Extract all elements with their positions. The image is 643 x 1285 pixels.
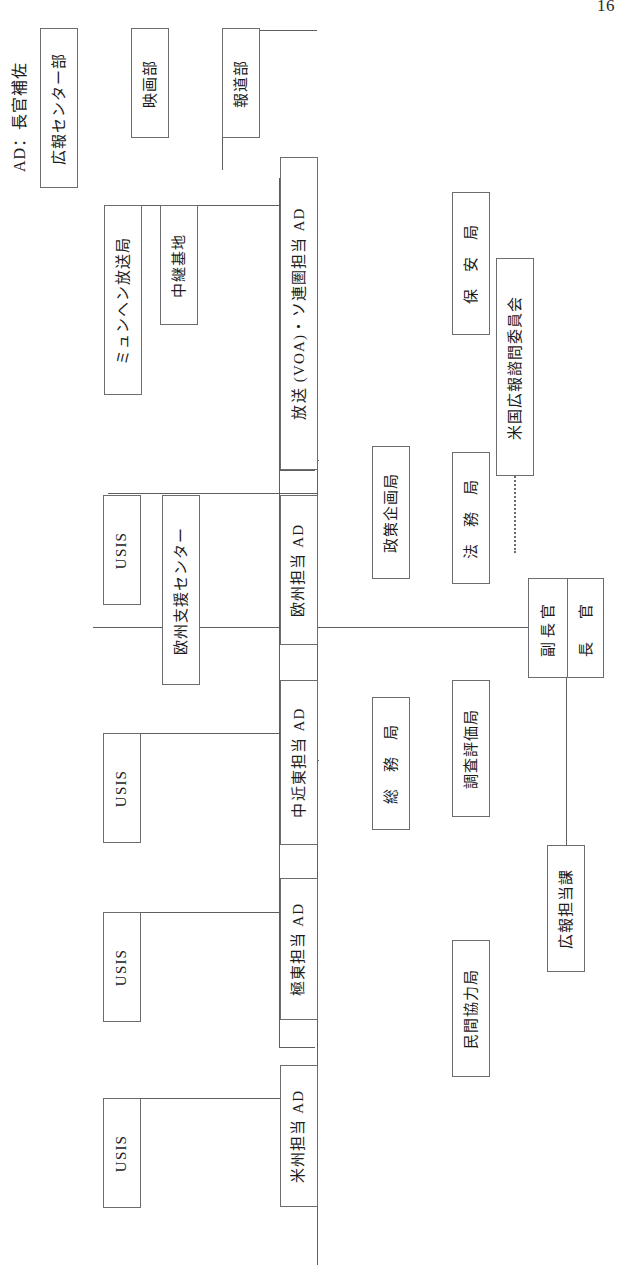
node-advisory-committee[interactable]: 米国広報諮問委員会 <box>496 258 534 476</box>
node-label: 調査評価局 <box>464 709 479 789</box>
node-label: 中継基地 <box>172 233 187 297</box>
node-research-evaluation-bureau[interactable]: 調査評価局 <box>452 680 490 817</box>
node-security-bureau[interactable]: 保 安 局 <box>452 192 490 335</box>
node-label: ミュンヘン放送局 <box>116 236 131 364</box>
node-private-cooperation-bureau[interactable]: 民間協力局 <box>452 940 490 1077</box>
node-label: 欧州担当 AD <box>292 523 307 617</box>
node-label: 米州担当 AD <box>292 1089 307 1183</box>
org-chart-canvas: 16 米国広報諮問委員会 長 官 副長官 <box>0 0 643 1285</box>
node-label: 保 安 局 <box>464 224 479 304</box>
node-label: 欧州支援センター <box>174 526 189 654</box>
node-label: 広報担当課 <box>559 869 574 949</box>
node-label: USIS <box>115 769 130 806</box>
node-deputy-director[interactable]: 副長官 <box>529 579 567 677</box>
node-pr-section[interactable]: 広報担当課 <box>547 845 585 972</box>
node-usis-americas[interactable]: USIS <box>103 1098 141 1208</box>
page-number: 16 <box>597 0 615 16</box>
node-usis-europe[interactable]: USIS <box>103 495 141 605</box>
node-label: 放送 (VOA)・ソ連圏担当 AD <box>292 207 307 419</box>
node-ad-europe[interactable]: 欧州担当 AD <box>280 495 318 645</box>
node-label: 政策企画局 <box>384 473 399 553</box>
connector-europe-children <box>108 493 317 494</box>
node-label: 総 務 局 <box>384 724 399 804</box>
node-munich-broadcast-station[interactable]: ミュンヘン放送局 <box>104 205 142 395</box>
node-label: 広報センター部 <box>52 52 67 164</box>
node-relay-base[interactable]: 中継基地 <box>160 205 198 325</box>
node-film-department[interactable]: 映画部 <box>131 28 169 138</box>
connector-legal-stub <box>279 470 315 471</box>
node-news-department[interactable]: 報道部 <box>222 28 260 138</box>
node-label: 中近東担当 AD <box>292 707 307 817</box>
node-director[interactable]: 長 官 <box>567 579 605 677</box>
node-label: USIS <box>115 531 130 568</box>
node-director-deputy-group[interactable]: 長 官 副長官 <box>528 578 604 678</box>
node-label: USIS <box>115 948 130 985</box>
node-ad-middle-east[interactable]: 中近東担当 AD <box>280 680 318 845</box>
node-label: 米国広報諮問委員会 <box>508 295 523 439</box>
node-label: 副長官 <box>541 600 556 657</box>
node-general-affairs-bureau[interactable]: 総 務 局 <box>372 697 410 830</box>
node-ad-voa-soviet[interactable]: 放送 (VOA)・ソ連圏担当 AD <box>280 157 318 470</box>
node-label: 法 務 局 <box>464 478 479 558</box>
node-label: 長 官 <box>579 600 594 657</box>
connector-director-to-pr-section <box>566 676 567 848</box>
node-pr-center-department[interactable]: 広報センター部 <box>40 28 78 188</box>
node-ad-far-east[interactable]: 極東担当 AD <box>280 878 318 1020</box>
node-policy-planning-bureau[interactable]: 政策企画局 <box>372 446 410 579</box>
connector-private-stub <box>279 1047 315 1048</box>
node-label: 極東担当 AD <box>292 902 307 996</box>
node-usis-far-east[interactable]: USIS <box>103 912 141 1022</box>
node-usis-middle-east[interactable]: USIS <box>103 733 141 843</box>
node-europe-support-center[interactable]: 欧州支援センター <box>162 495 200 685</box>
node-legal-bureau[interactable]: 法 務 局 <box>452 452 490 584</box>
node-label: 民間協力局 <box>464 969 479 1049</box>
legend-ad-definition: AD：長官補佐 <box>6 62 30 172</box>
node-ad-americas[interactable]: 米州担当 AD <box>280 1065 318 1207</box>
node-label: 報道部 <box>234 59 249 107</box>
node-label: 映画部 <box>143 59 158 107</box>
node-label: USIS <box>115 1134 130 1171</box>
